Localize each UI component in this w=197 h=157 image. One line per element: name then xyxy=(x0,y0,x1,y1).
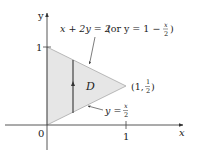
x-axis-label: x xyxy=(179,127,185,138)
vertex-label-frac-den: 2 xyxy=(146,87,150,95)
upper-boundary-alt-suffix: ) xyxy=(170,23,174,34)
vertex-label-frac-num: 1 xyxy=(146,78,150,86)
vertex-label-prefix: (1, xyxy=(131,81,144,92)
upper-boundary-leader xyxy=(90,37,96,64)
lower-boundary-frac-den: 2 xyxy=(124,111,128,119)
lower-boundary-lhs: y = xyxy=(104,105,121,116)
x-tick-label-1: 1 xyxy=(123,131,129,142)
upper-boundary-equation: x + 2y = 2 xyxy=(60,23,111,34)
vertex-label-suffix: ) xyxy=(151,81,155,92)
lower-boundary-leader xyxy=(88,106,103,110)
region-label: D xyxy=(85,80,95,93)
origin-label: 0 xyxy=(38,128,44,139)
y-tick-label-1: 1 xyxy=(36,42,42,53)
lower-boundary-frac-num: x xyxy=(124,102,128,110)
upper-boundary-alt-prefix: (or y = 1 − xyxy=(107,23,160,34)
upper-boundary-frac-num: x xyxy=(164,21,168,29)
region-diagram: y x 0 1 1 D x + 2y = 2 (or y = 1 − x 2 )… xyxy=(0,0,197,157)
y-axis-label: y xyxy=(37,10,44,21)
upper-boundary-frac-den: 2 xyxy=(164,30,168,38)
